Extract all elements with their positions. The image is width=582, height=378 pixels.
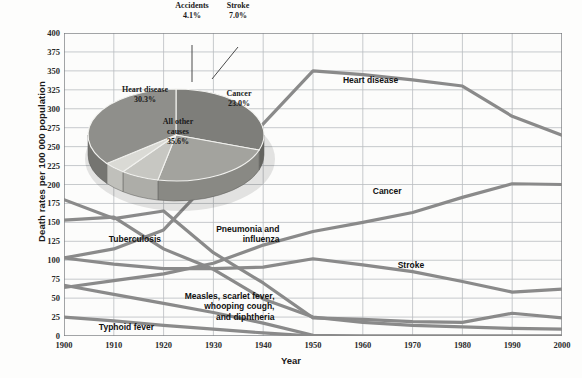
x-tick-label: 1980 — [442, 340, 482, 350]
series-label: Cancer — [373, 186, 402, 197]
x-tick-label: 1960 — [343, 340, 383, 350]
y-tick-label: 150 — [26, 217, 60, 227]
x-tick-label: 1930 — [193, 340, 233, 350]
x-tick-label: 1970 — [393, 340, 433, 350]
pie-slice-label: Cancer23.0% — [210, 89, 268, 109]
pie-slice-label: Heart disease30.3% — [102, 85, 188, 105]
y-tick-label: 350 — [26, 66, 60, 76]
x-tick-label: 2000 — [542, 340, 582, 350]
x-tick-label: 1940 — [243, 340, 283, 350]
y-tick-label: 225 — [26, 161, 60, 171]
y-tick-label: 25 — [26, 312, 60, 322]
series-label: Pneumonia and influenza — [216, 224, 279, 245]
y-tick-label: 50 — [26, 293, 60, 303]
y-tick-label: 200 — [26, 180, 60, 190]
y-tick-label: 375 — [26, 47, 60, 57]
x-tick-label: 1920 — [144, 340, 184, 350]
y-tick-label: 400 — [26, 28, 60, 38]
plot-svg — [64, 33, 562, 336]
plot-area: Heart diseaseCancerStrokePneumonia and i… — [64, 33, 562, 336]
series-label: Tuberculosis — [109, 234, 161, 245]
y-tick-label: 125 — [26, 236, 60, 246]
x-tick-label: 1900 — [44, 340, 84, 350]
pie-slice-label: All othercauses35.6% — [146, 117, 210, 147]
y-tick-label: 175 — [26, 198, 60, 208]
y-tick-label: 100 — [26, 255, 60, 265]
x-axis-title: Year — [0, 355, 582, 366]
y-tick-label: 250 — [26, 142, 60, 152]
y-tick-label: 300 — [26, 104, 60, 114]
y-tick-label: 275 — [26, 123, 60, 133]
x-tick-label: 1950 — [293, 340, 333, 350]
series-label: Stroke — [398, 260, 424, 271]
x-tick-label: 1990 — [492, 340, 532, 350]
pie-slice-label: Stroke7.0% — [210, 1, 266, 21]
x-tick-label: 1910 — [94, 340, 134, 350]
chart-figure: Death rates per 100 000 population Year … — [0, 0, 582, 378]
series-label: Measles, scarlet fever, whooping cough, … — [185, 291, 275, 323]
y-tick-label: 325 — [26, 85, 60, 95]
series-label: Heart disease — [343, 75, 398, 86]
y-tick-label: 75 — [26, 274, 60, 284]
series-label: Typhoid fever — [99, 322, 154, 333]
